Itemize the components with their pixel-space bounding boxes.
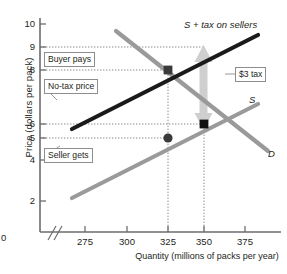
demand-curve <box>116 31 268 151</box>
y-axis-ticks <box>40 24 46 201</box>
y-tick-label-6: 6 <box>13 118 35 129</box>
x-tick-label-375: 375 <box>228 236 262 247</box>
y-tick-label-10: 10 <box>13 18 35 29</box>
supply-demand-tax-chart: Price (dollars per pack) 10 9 8 6 5 4 2 … <box>0 0 287 274</box>
curve-label-demand: D <box>268 148 275 159</box>
y-tick-label-9: 9 <box>13 41 35 52</box>
tax-arrow-shaft <box>200 58 208 118</box>
y-tick-label-2: 2 <box>13 195 35 206</box>
x-axis-ticks <box>85 226 245 232</box>
axis-break-icon <box>48 226 62 240</box>
point-with-tax-equilibrium <box>164 66 173 75</box>
y-tick-label-4: 4 <box>13 154 35 165</box>
point-no-tax-equilibrium <box>200 120 209 129</box>
callout-tax-amount: $3 tax <box>235 67 266 82</box>
curve-label-supply: S <box>249 94 255 105</box>
curve-label-supply-plus-tax: S + tax on sellers <box>184 19 257 30</box>
y-tick-label-5: 5 <box>13 132 35 143</box>
x-tick-label-300: 300 <box>110 236 144 247</box>
point-seller-receives <box>163 133 172 142</box>
chart-canvas <box>0 0 287 274</box>
callout-buyer-pays: Buyer pays <box>44 52 95 67</box>
x-tick-label-275: 275 <box>68 236 102 247</box>
callout-no-tax-price: No-tax price <box>44 79 98 94</box>
callout-seller-gets: Seller gets <box>44 148 93 163</box>
supply-plus-tax-curve <box>72 35 258 129</box>
origin-label: 0 <box>1 232 6 243</box>
x-tick-label-350: 350 <box>187 236 221 247</box>
x-axis-title: Quantity (millions of packs per year) <box>128 251 286 261</box>
x-tick-label-325: 325 <box>151 236 185 247</box>
y-tick-label-8: 8 <box>13 64 35 75</box>
supply-curve <box>72 104 258 198</box>
